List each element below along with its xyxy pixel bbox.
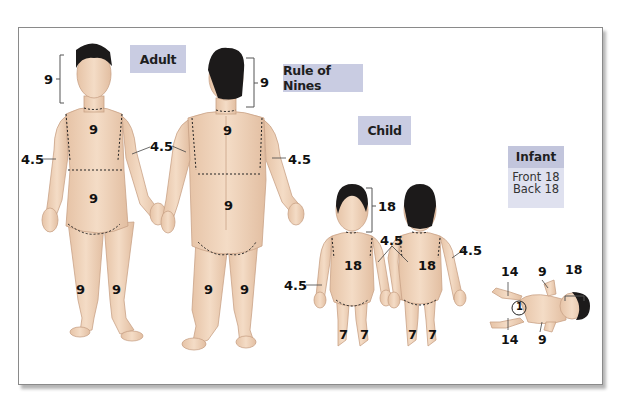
adult-back-leg-right-pct: 9 xyxy=(240,283,249,296)
adult-back-head-pct: 9 xyxy=(260,76,269,89)
adult-front-chest-pct: 9 xyxy=(89,123,98,136)
child-arm-right-pct: 4.5 xyxy=(459,244,482,257)
child-label: Child xyxy=(358,116,411,145)
infant-head-pct: 18 xyxy=(565,264,582,277)
rule-of-nines-label: Rule of Nines xyxy=(283,64,363,92)
child-head-pct: 18 xyxy=(378,200,396,213)
adult-front-arm-left-pct: 4.5 xyxy=(150,140,173,153)
child-back-leg-right-pct: 7 xyxy=(428,328,437,341)
child-back-leg-left-pct: 7 xyxy=(408,328,417,341)
child-arm-shared-pct: 4.5 xyxy=(380,234,403,247)
child-front-leg-right-pct: 7 xyxy=(360,328,369,341)
adult-label: Adult xyxy=(130,45,186,73)
infant-figure xyxy=(490,280,584,332)
adult-back-lower-pct: 9 xyxy=(224,199,233,212)
infant-genital-pct: 1 xyxy=(516,302,523,312)
adult-front-abdomen-pct: 9 xyxy=(89,192,98,205)
infant-label: Infant xyxy=(508,146,564,168)
child-front-leg-left-pct: 7 xyxy=(339,328,348,341)
child-back-trunk-pct: 18 xyxy=(418,259,436,272)
child-front-trunk-pct: 18 xyxy=(344,259,362,272)
infant-arm-top-pct: 9 xyxy=(538,266,547,279)
infant-leg-top-pct: 14 xyxy=(501,266,518,279)
adult-front-head-pct: 9 xyxy=(44,73,53,86)
infant-back-value: Back 18 xyxy=(508,183,564,195)
child-back-hair xyxy=(404,184,436,229)
adult-front-leg-right-pct: 9 xyxy=(76,283,85,296)
adult-back-leg-left-pct: 9 xyxy=(204,283,213,296)
child-arm-left-pct: 4.5 xyxy=(284,279,307,292)
adult-front-arm-right-pct: 4.5 xyxy=(21,153,44,166)
infant-leg-bottom-pct: 14 xyxy=(501,334,518,347)
infant-arm-bottom-pct: 9 xyxy=(538,334,547,347)
adult-back-arm-pct: 4.5 xyxy=(288,153,311,166)
adult-front-figure xyxy=(42,50,166,341)
adult-front-leg-left-pct: 9 xyxy=(112,283,121,296)
adult-back-upper-pct: 9 xyxy=(223,124,232,137)
infant-label-box: Infant Front 18 Back 18 xyxy=(508,146,564,208)
